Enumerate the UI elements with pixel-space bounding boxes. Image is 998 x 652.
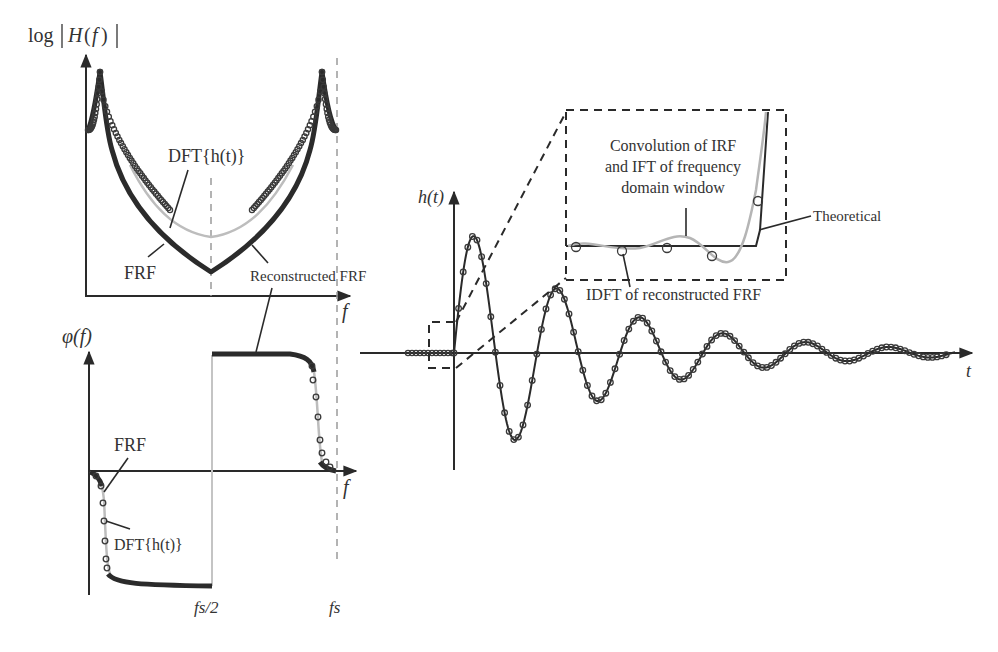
magnitude-frf-leader: [148, 244, 164, 257]
half-fs-tick: fs/2: [194, 598, 219, 617]
phase-frf-label: FRF: [114, 435, 146, 455]
convolution-label-line3: domain window: [621, 179, 725, 196]
convolution-label-line1: Convolution of IRF: [610, 137, 736, 154]
idft-leader: [623, 254, 630, 287]
theoretical-label: Theoretical: [813, 208, 881, 224]
time-xlabel: t: [966, 361, 972, 381]
frf-irf-diagram: log H ( f ) f DFT{h(t)} FRF Reconstructe…: [0, 0, 998, 652]
phase-xlabel: f: [343, 476, 351, 499]
magnitude-ylabel-f: f: [92, 24, 100, 47]
time-ylabel: h(t): [418, 187, 444, 208]
magnitude-panel: log H ( f ) f DFT{h(t)} FRF Reconstructe…: [28, 24, 366, 560]
magnitude-frf-label: FRF: [124, 263, 156, 283]
magnitude-dft-leader: [170, 170, 188, 228]
convolution-label-line2: and IFT of frequency: [605, 158, 741, 176]
inset-marker: [663, 244, 672, 253]
phase-frf-pos: [212, 354, 314, 372]
phase-dft-pos: [314, 372, 336, 471]
fs-tick: fs: [329, 598, 341, 617]
magnitude-frf-curve: [88, 72, 336, 272]
zoom-connector-top: [456, 112, 566, 322]
magnitude-ylabel-log: log: [28, 24, 54, 47]
magnitude-xlabel: f: [342, 300, 350, 323]
reconstructed-leader-bottom: [256, 288, 272, 352]
paren-close: ): [101, 24, 108, 47]
time-panel: h(t) t Convolution of IRF and IFT of fre…: [360, 110, 972, 470]
idft-label: IDFT of reconstructed FRF: [586, 286, 761, 303]
phase-ylabel: φ(f): [62, 325, 92, 348]
reconstructed-leader-top: [252, 245, 268, 263]
phase-dft-leader: [106, 521, 130, 529]
zoom-region-box: [429, 322, 454, 368]
phase-dft-neg: [90, 472, 112, 578]
phase-panel: φ(f) f FRF DFT{h(t)} fs/2 fs: [62, 325, 356, 617]
phase-frf-leader: [104, 458, 128, 492]
magnitude-markers: [85, 69, 338, 212]
reconstructed-frf-label: Reconstructed FRF: [250, 268, 366, 284]
impulse-response-markers: [405, 234, 949, 443]
magnitude-dft-label: DFT{h(t)}: [168, 146, 245, 167]
data-marker: [323, 459, 329, 465]
phase-dft-label: DFT{h(t)}: [114, 536, 183, 554]
magnitude-ylabel-H: H: [67, 24, 84, 46]
paren-open: (: [84, 24, 91, 47]
